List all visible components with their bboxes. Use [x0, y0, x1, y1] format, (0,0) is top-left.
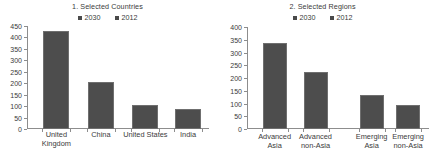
bar	[396, 105, 420, 129]
y-tick-label: 350	[10, 45, 22, 52]
y-tick	[244, 65, 247, 66]
y-tick-label: 200	[10, 80, 22, 87]
y-tick	[24, 49, 27, 50]
x-category-label-line: non-Asia	[299, 141, 332, 150]
y-tick	[244, 91, 247, 92]
y-tick	[24, 60, 27, 61]
y-tick-label: 250	[230, 62, 242, 69]
plot-area-2: 050100150200250300350400AdvancedAsiaAdva…	[247, 27, 425, 129]
y-tick-label: 250	[10, 68, 22, 75]
x-category-label-line: China	[91, 130, 110, 139]
y-tick-label: 400	[10, 34, 22, 41]
x-category-label-line: non-Asia	[392, 141, 424, 150]
bar	[263, 43, 287, 129]
x-category-label-line: India	[180, 130, 196, 139]
y-tick-label: 0	[238, 126, 242, 133]
x-category-label-line: Asia	[356, 141, 388, 150]
x-category-label-line: Kingdom	[42, 139, 71, 148]
x-category-label-line: Emerging	[392, 132, 424, 141]
legend-item-2030: 2030	[293, 13, 316, 22]
legend-label-2012: 2012	[337, 13, 353, 22]
y-tick	[244, 129, 247, 130]
chart-panel-selected-regions: 2. Selected Regions 2030 2012 0501001502…	[215, 0, 430, 160]
y-tick	[244, 53, 247, 54]
y-tick	[24, 118, 27, 119]
plot-area-1: 050100150200250300350400450UnitedKingdom…	[27, 26, 205, 129]
y-tick	[24, 37, 27, 38]
y-tick	[244, 27, 247, 28]
y-tick-label: 50	[234, 113, 242, 120]
y-axis-line	[27, 26, 28, 129]
y-tick	[24, 95, 27, 96]
y-tick-label: 0	[18, 126, 22, 133]
legend-2: 2030 2012	[215, 13, 430, 22]
x-tick	[202, 129, 203, 132]
y-tick	[244, 116, 247, 117]
y-tick-label: 50	[14, 114, 22, 121]
y-tick	[244, 78, 247, 79]
legend-label-2030: 2030	[85, 13, 101, 22]
x-category-label: UnitedKingdom	[42, 130, 71, 148]
legend-label-2030: 2030	[300, 13, 316, 22]
legend-swatch-icon	[115, 16, 119, 20]
x-category-label-line: United	[42, 130, 71, 139]
y-tick-label: 100	[10, 103, 22, 110]
legend-item-2030: 2030	[78, 13, 101, 22]
x-category-label-line: Asia	[258, 141, 291, 150]
legend-item-2012: 2012	[330, 13, 353, 22]
y-tick	[24, 26, 27, 27]
legend-swatch-icon	[78, 16, 82, 20]
legend-swatch-icon	[330, 16, 334, 20]
y-tick-label: 150	[230, 87, 242, 94]
y-tick	[24, 72, 27, 73]
legend-label-2012: 2012	[122, 13, 138, 22]
bar	[360, 95, 384, 129]
legend-item-2012: 2012	[115, 13, 138, 22]
bar	[88, 82, 114, 129]
x-tick	[174, 129, 175, 132]
chart-panel-selected-countries: 1. Selected Countries 2030 2012 05010015…	[0, 0, 215, 160]
legend-swatch-icon	[293, 16, 297, 20]
y-tick-label: 150	[10, 91, 22, 98]
x-category-label-line: Emerging	[356, 132, 388, 141]
x-category-label-line: United States	[123, 130, 167, 139]
y-tick	[24, 129, 27, 130]
y-tick-label: 100	[230, 100, 242, 107]
y-tick	[24, 83, 27, 84]
legend-1: 2030 2012	[0, 13, 215, 22]
bar	[132, 105, 158, 129]
x-category-label: AdvancedAsia	[258, 132, 291, 150]
x-category-label: Advancednon-Asia	[299, 132, 332, 150]
y-axis-line	[247, 27, 248, 129]
x-category-label: China	[91, 130, 110, 139]
panel-title-2: 2. Selected Regions	[215, 2, 430, 11]
x-category-label: EmergingAsia	[356, 132, 388, 150]
y-tick	[244, 104, 247, 105]
y-tick-label: 300	[230, 49, 242, 56]
x-tick	[115, 129, 116, 132]
bar	[43, 31, 69, 129]
y-tick	[244, 40, 247, 41]
panel-title-1: 1. Selected Countries	[0, 2, 215, 11]
y-tick-label: 450	[10, 23, 22, 30]
x-category-label: Emergingnon-Asia	[392, 132, 424, 150]
bar	[175, 109, 201, 129]
y-tick-label: 200	[230, 75, 242, 82]
y-tick-label: 400	[230, 24, 242, 31]
x-category-label-line: Advanced	[258, 132, 291, 141]
chart-figure: 1. Selected Countries 2030 2012 05010015…	[0, 0, 430, 160]
x-category-label-line: Advanced	[299, 132, 332, 141]
y-tick-label: 300	[10, 57, 22, 64]
bar	[304, 72, 328, 129]
x-category-label: United States	[123, 130, 167, 139]
x-tick	[87, 129, 88, 132]
y-tick-label: 350	[230, 36, 242, 43]
y-tick	[24, 106, 27, 107]
x-category-label: India	[180, 130, 196, 139]
